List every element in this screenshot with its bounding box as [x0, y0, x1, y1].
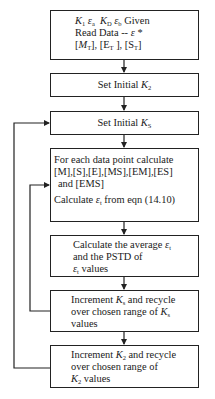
- avg-line-1: Calculate the average εt: [73, 239, 195, 251]
- given-constants: K1 εa KD εb Given: [75, 15, 195, 27]
- inc-k2-line-1: Increment K2 and recycle: [71, 349, 195, 361]
- input-box: K1 εa KD εb Given Read Data -- ε * [MT],…: [50, 10, 199, 60]
- calc-line-3: and [EMS]: [54, 178, 195, 190]
- set-initial-ks-box: Set Initial KS: [50, 111, 199, 135]
- increment-k2-box: Increment K2 and recycle over chosen ran…: [50, 345, 199, 388]
- read-data: Read Data -- ε *: [75, 27, 195, 39]
- calc-line-2: [M],[S],[E],[MS],[EM],[ES]: [54, 166, 195, 178]
- calc-line-1: For each data point calculate: [54, 154, 195, 166]
- set-initial-k2-box: Set Initial K2: [50, 73, 199, 97]
- total-concentrations: [MT], [ET ], [ST]: [75, 39, 195, 51]
- increment-ks-box: Increment Ks and recycle over chosen ran…: [50, 290, 199, 332]
- inc-k2-line-2: over chosen range of: [71, 361, 195, 373]
- inc-ks-line-2: over chosen range of Ks: [71, 306, 195, 318]
- inc-ks-line-1: Increment Ks and recycle: [71, 294, 195, 306]
- average-pstd-box: Calculate the average εt and the PSTD of…: [50, 235, 199, 277]
- calculate-species-box: For each data point calculate [M],[S],[E…: [50, 148, 199, 222]
- calc-line-4: Calculate εt from eqn (14.10): [54, 194, 195, 206]
- inc-ks-line-3: values: [71, 318, 195, 330]
- inc-k2-line-3: K2 values: [71, 373, 195, 385]
- avg-line-2: and the PSTD of: [73, 251, 195, 263]
- avg-line-3: εt values: [73, 263, 195, 275]
